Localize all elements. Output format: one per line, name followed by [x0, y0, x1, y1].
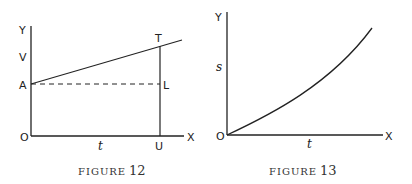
fig12-t-point-label: T	[154, 32, 162, 45]
fig12-x-label: X	[187, 131, 195, 144]
fig12-v-label: V	[19, 51, 27, 64]
fig13-caption-word: FIGURE	[269, 166, 317, 177]
fig13-x-label: X	[385, 130, 393, 143]
fig12-a-label: A	[19, 79, 27, 92]
fig13-distance-curve	[227, 28, 372, 135]
fig12-y-label: Y	[18, 24, 26, 37]
figure-13: Y s O t X FIGURE 13	[214, 11, 393, 178]
fig13-s-label: s	[216, 60, 222, 74]
fig12-u-label: U	[155, 140, 163, 153]
fig12-caption-number: 12	[129, 163, 146, 178]
fig12-t-axis-label: t	[98, 139, 103, 153]
fig13-t-axis-label: t	[307, 137, 312, 151]
fig13-y-label: Y	[214, 11, 222, 24]
fig12-velocity-line	[31, 40, 182, 84]
diagram-canvas: Y V A O t U X T L FIGURE 12 Y s O t X FI…	[0, 0, 412, 184]
figure-12: Y V A O t U X T L FIGURE 12	[18, 24, 195, 178]
fig12-l-label: L	[163, 79, 170, 92]
fig13-caption-number: 13	[320, 163, 337, 178]
fig12-origin-label: O	[20, 131, 29, 144]
fig12-caption-word: FIGURE	[78, 166, 126, 177]
fig13-origin-label: O	[216, 130, 225, 143]
